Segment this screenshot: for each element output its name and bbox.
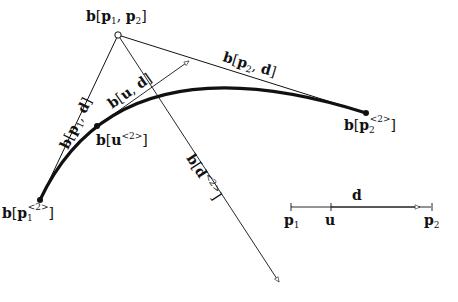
curve-u-point xyxy=(94,123,100,129)
param-p2-label: p2 xyxy=(424,212,440,230)
label-curve-u: b[u<2>] xyxy=(96,131,148,148)
label-curve-start: b[p1<2>] xyxy=(2,202,54,223)
parameter-line: d p1 u p2 xyxy=(284,187,440,230)
label-derivative: b[d<2>] xyxy=(183,150,225,202)
bezier-diagram: b[p1, p2] b[p1, d] b[u, d] b[p2, d] b[u<… xyxy=(0,0,458,302)
label-curve-end: b[p2<2>] xyxy=(344,114,396,135)
control-point-open xyxy=(115,32,121,38)
param-p1-label: p1 xyxy=(284,212,300,230)
param-u-label: u xyxy=(325,212,335,228)
label-top-vertex: b[p1, p2] xyxy=(86,8,147,26)
curve-end-point xyxy=(363,110,369,116)
param-d-label: d xyxy=(352,187,362,203)
